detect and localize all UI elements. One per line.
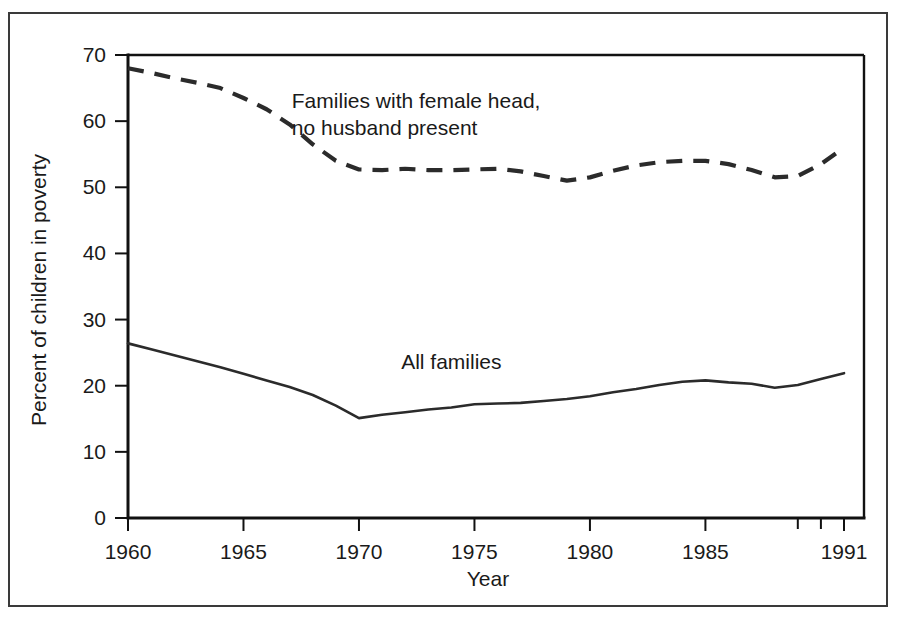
figure-root: 0102030405060701960196519701975198019851… bbox=[0, 0, 899, 622]
x-tick-label: 1965 bbox=[220, 540, 267, 563]
y-tick-label: 20 bbox=[83, 374, 106, 397]
y-tick-label: 60 bbox=[83, 109, 106, 132]
series-annotation: All families bbox=[401, 350, 501, 373]
x-axis-title: Year bbox=[467, 567, 509, 590]
series-line-female-head bbox=[128, 68, 844, 180]
y-tick-label: 40 bbox=[83, 241, 106, 264]
x-tick-label: 1975 bbox=[451, 540, 498, 563]
y-tick-label: 10 bbox=[83, 440, 106, 463]
y-tick-label: 70 bbox=[83, 43, 106, 66]
y-tick-label: 30 bbox=[83, 308, 106, 331]
y-tick-label: 50 bbox=[83, 175, 106, 198]
poverty-line-chart: 0102030405060701960196519701975198019851… bbox=[0, 0, 899, 622]
axis-ticks bbox=[115, 55, 844, 531]
series-annotations: Families with female head,no husband pre… bbox=[292, 89, 541, 373]
x-tick-label: 1960 bbox=[105, 540, 152, 563]
x-tick-label: 1980 bbox=[567, 540, 614, 563]
plot-axes bbox=[128, 55, 864, 518]
series-annotation-line: no husband present bbox=[292, 116, 478, 139]
series-annotation-line: All families bbox=[401, 350, 501, 373]
x-tick-label: 1970 bbox=[336, 540, 383, 563]
series-annotation: Families with female head,no husband pre… bbox=[292, 89, 541, 139]
y-tick-label: 0 bbox=[94, 506, 106, 529]
y-axis-title: Percent of children in poverty bbox=[27, 154, 50, 426]
x-tick-label: 1985 bbox=[682, 540, 729, 563]
plot-frame bbox=[128, 55, 864, 518]
x-tick-label: 1991 bbox=[821, 540, 868, 563]
series-annotation-line: Families with female head, bbox=[292, 89, 541, 112]
